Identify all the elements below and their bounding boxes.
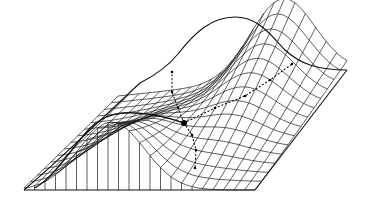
back-profile <box>140 17 347 83</box>
path-point <box>194 167 197 170</box>
path-point <box>177 107 180 110</box>
mesh-line <box>31 122 262 182</box>
path-point <box>171 71 174 74</box>
mesh-line <box>118 0 347 96</box>
mesh-line <box>245 53 337 190</box>
mesh-line <box>37 122 268 175</box>
front-ridge <box>35 113 184 188</box>
path-point <box>244 95 247 98</box>
path-point <box>191 134 194 137</box>
surface-outline <box>24 17 347 190</box>
mesh-line <box>84 73 314 130</box>
path-point <box>214 107 217 110</box>
path-point <box>171 91 174 94</box>
mesh-line <box>192 0 285 187</box>
path-point <box>195 149 198 152</box>
path-point <box>269 79 272 82</box>
wireframe-mesh <box>24 0 347 190</box>
saddle-point-marker <box>181 120 187 126</box>
path-point <box>291 63 294 66</box>
mesh-line <box>111 14 340 103</box>
mesh-line <box>58 118 288 155</box>
potential-energy-surface <box>0 0 369 205</box>
mesh-line <box>105 29 334 109</box>
